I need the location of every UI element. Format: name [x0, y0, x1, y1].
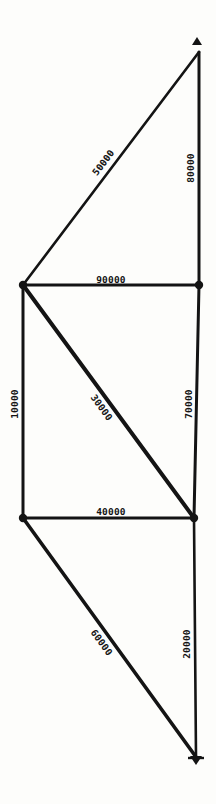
edge-weight-label: 90000 [96, 274, 126, 285]
edge-weight-label: 80000 [185, 153, 196, 183]
arrowhead-up-icon [192, 37, 202, 45]
edge-lower-right-bottom [194, 518, 196, 757]
node-dot-upper-right [195, 281, 203, 289]
flow-network-diagram: 5000080000900001000030000700004000060000… [0, 0, 216, 804]
edge-top-upper-left [23, 52, 199, 285]
edge-lower-left-bottom [23, 518, 196, 757]
edge-upper-left-lower-right [23, 285, 194, 518]
node-dot-lower-right [190, 514, 198, 522]
edge-weight-label: 70000 [183, 389, 194, 419]
edge-weight-label: 40000 [96, 506, 126, 517]
node-dot-lower-left [19, 514, 27, 522]
diagram-canvas: 5000080000900001000030000700004000060000… [0, 0, 216, 804]
node-dot-upper-left [19, 281, 27, 289]
edge-weight-label: 20000 [181, 629, 192, 659]
edge-weight-label: 50000 [90, 147, 117, 177]
edge-upper-right-lower-right [194, 285, 199, 518]
arrowhead-down-icon [190, 756, 202, 765]
edge-weight-label: 10000 [9, 389, 20, 419]
